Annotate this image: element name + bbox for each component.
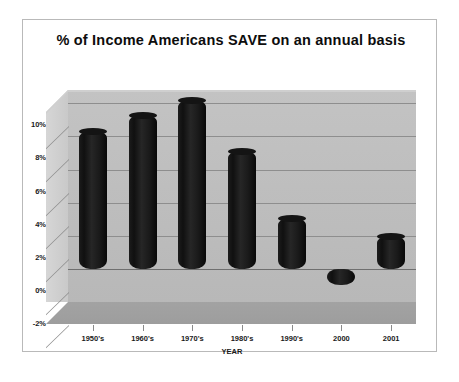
plot-area xyxy=(46,90,418,325)
bar xyxy=(228,151,256,269)
bar xyxy=(278,218,306,269)
x-axis-tick xyxy=(292,325,293,331)
y-axis-tick-label: 6% xyxy=(12,188,46,196)
x-axis-title: YEAR xyxy=(46,347,418,356)
y-axis: 10%8%6%4%2%0%-2% xyxy=(6,90,46,325)
chart-title: % of Income Americans SAVE on an annual … xyxy=(45,31,417,50)
bar xyxy=(79,131,107,268)
bar xyxy=(377,236,405,269)
x-axis-tick-label: 2000 xyxy=(316,334,366,343)
x-axis-tick xyxy=(192,325,193,331)
y-axis-tick-label: 10% xyxy=(12,121,46,129)
y-axis-tick-label: 4% xyxy=(12,221,46,229)
y-axis-tick-label: 2% xyxy=(12,254,46,262)
x-axis-tick-label: 1960's xyxy=(118,334,168,343)
x-axis-tick-label: 1970's xyxy=(167,334,217,343)
chart-card: % of Income Americans SAVE on an annual … xyxy=(22,19,437,352)
x-axis-tick xyxy=(341,325,342,331)
bar xyxy=(129,115,157,269)
x-axis-tick xyxy=(391,325,392,331)
x-axis-tick xyxy=(143,325,144,331)
bar xyxy=(178,100,206,269)
gridline xyxy=(68,269,416,270)
gridline xyxy=(68,103,416,104)
x-axis-tick-label: 2001 xyxy=(366,334,416,343)
x-axis-tick-label: 1950's xyxy=(68,334,118,343)
y-axis-tick-label: 0% xyxy=(12,287,46,295)
gridline xyxy=(68,136,416,137)
x-axis-tick xyxy=(242,325,243,331)
y-axis-tick-label: -2% xyxy=(12,320,46,328)
x-axis-tick xyxy=(93,325,94,331)
x-axis-tick-label: 1990's xyxy=(267,334,317,343)
y-axis-tick-label: 8% xyxy=(12,154,46,162)
x-axis-tick-label: 1980's xyxy=(217,334,267,343)
